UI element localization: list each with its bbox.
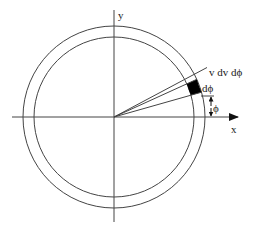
x-axis-label: x [231, 123, 237, 135]
phi-label: ϕ [213, 102, 219, 114]
ray-lower [114, 92, 202, 117]
y-axis-label: y [118, 9, 124, 21]
dphi-label: dϕ [202, 82, 214, 94]
ray-middle [114, 79, 197, 117]
element-label: v dv dϕ [209, 66, 243, 78]
diagram-canvas: y x v dv dϕ dϕ ϕ [0, 0, 255, 229]
